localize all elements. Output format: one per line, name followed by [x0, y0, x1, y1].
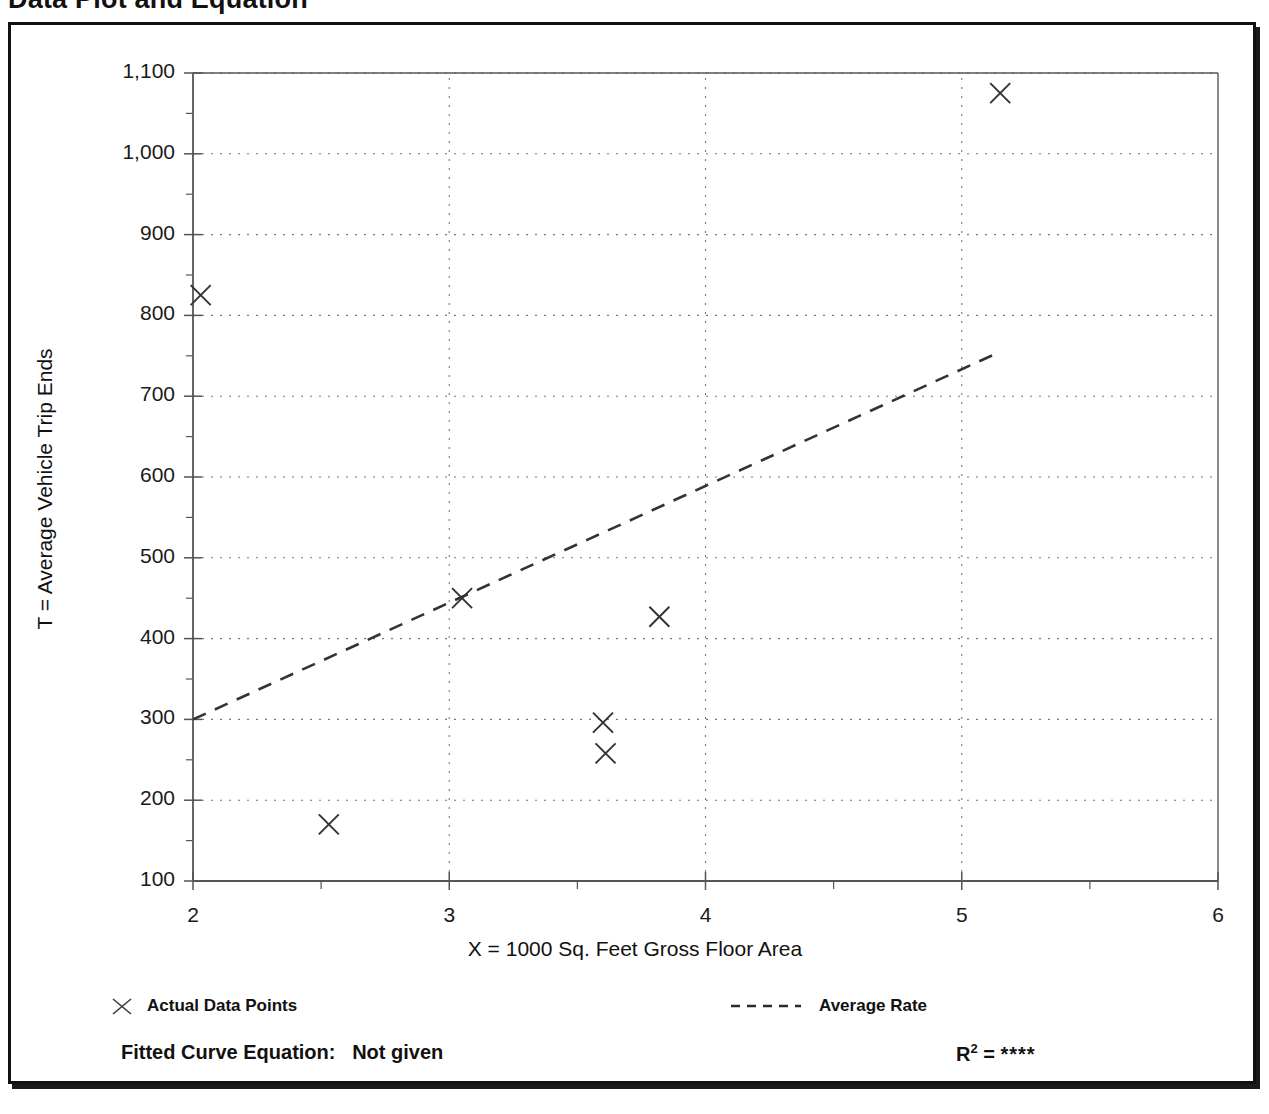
y-axis-tick-label: 1,100	[59, 59, 175, 83]
r-squared-equals: =	[983, 1043, 995, 1065]
y-axis-tick-label: 900	[59, 221, 175, 245]
r-squared-stars: ****	[1001, 1043, 1036, 1065]
y-axis-tick-label: 600	[59, 463, 175, 487]
fitted-curve-equation: Fitted Curve Equation: Not given	[121, 1041, 443, 1064]
r-squared-value: R2 = ****	[956, 1041, 1036, 1066]
y-axis-tick-label: 400	[59, 625, 175, 649]
legend-label-average-rate: Average Rate	[819, 996, 927, 1016]
y-axis-tick-label: 100	[59, 867, 175, 891]
chart-page: Data Plot and Equation 10020030040050060…	[0, 0, 1269, 1114]
chart-stage: 1002003004005006007008009001,0001,100 23…	[11, 25, 1259, 1087]
x-axis-tick-label: 3	[409, 903, 489, 927]
y-axis-tick-label: 1,000	[59, 140, 175, 164]
y-axis-tick-label: 500	[59, 544, 175, 568]
data-point-marker	[649, 607, 669, 627]
y-axis-title: T = Average Vehicle Trip Ends	[33, 269, 57, 709]
fitted-curve-equation-value: Not given	[352, 1041, 443, 1063]
trendline-average-rate	[193, 352, 1000, 720]
x-axis-tick-label: 6	[1178, 903, 1258, 927]
data-point-marker	[596, 743, 616, 763]
chart-footer: Fitted Curve Equation: Not given R2 = **…	[11, 1041, 1259, 1075]
x-axis-tick-label: 4	[666, 903, 746, 927]
r-squared-exponent: 2	[970, 1041, 977, 1056]
x-marker-icon	[107, 995, 137, 1017]
legend-item-actual-data-points: Actual Data Points	[107, 992, 297, 1020]
dashed-line-icon	[729, 1001, 803, 1011]
y-axis-tick-label: 700	[59, 382, 175, 406]
y-axis-tick-label: 800	[59, 301, 175, 325]
fitted-curve-equation-label: Fitted Curve Equation:	[121, 1041, 335, 1063]
x-axis-tick-label: 5	[922, 903, 1002, 927]
x-axis-title: X = 1000 Sq. Feet Gross Floor Area	[11, 937, 1259, 961]
y-axis-tick-label: 200	[59, 786, 175, 810]
page-title: Data Plot and Equation	[8, 0, 308, 15]
y-axis-tick-label: 300	[59, 705, 175, 729]
legend-label-actual-data-points: Actual Data Points	[147, 996, 297, 1016]
data-point-marker	[319, 814, 339, 834]
plot-canvas	[11, 25, 1259, 1087]
data-point-group	[191, 83, 1011, 834]
x-axis-tick-label: 2	[153, 903, 233, 927]
data-point-marker	[990, 83, 1010, 103]
legend-item-average-rate: Average Rate	[729, 992, 927, 1020]
r-squared-label: R	[956, 1043, 970, 1065]
chart-frame: 1002003004005006007008009001,0001,100 23…	[8, 22, 1256, 1084]
data-point-marker	[593, 713, 613, 733]
